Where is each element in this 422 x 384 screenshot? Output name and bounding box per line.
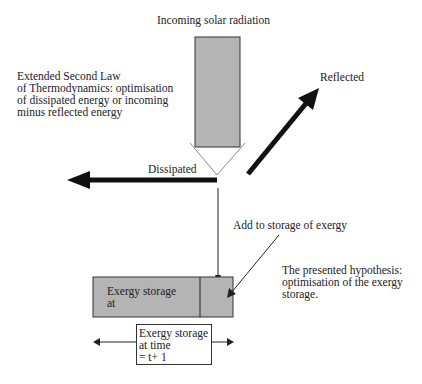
incoming-radiation-bar	[195, 37, 240, 147]
reflected-arrow-shaft	[248, 101, 308, 174]
diagram-graphics	[0, 0, 422, 384]
add-storage-label: Add to storage of exergy	[233, 219, 347, 231]
add-storage-arrow-shaft	[231, 235, 279, 293]
incoming-label: Incoming solar radiation	[157, 14, 270, 26]
reflected-label: Reflected	[320, 71, 364, 83]
incoming-chevron-icon	[190, 143, 245, 175]
dissipated-label: Dissipated	[148, 163, 197, 175]
dissipated-arrowhead-icon	[67, 171, 90, 189]
time-arrow-left-head-icon	[93, 338, 100, 346]
time-arrow-right-head-icon	[227, 338, 234, 346]
